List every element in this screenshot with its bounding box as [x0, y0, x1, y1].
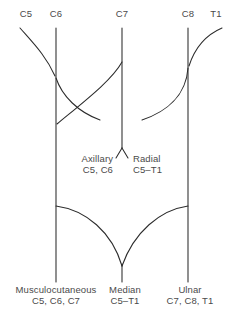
nerve-label-axillary: Axillary C5, C6 [82, 153, 113, 175]
musculocutaneous-name: Musculocutaneous [16, 284, 97, 295]
ulnar-name: Ulnar [178, 284, 201, 295]
median-name: Median [109, 284, 141, 295]
nerve-label-ulnar: Ulnar C7, C8, T1 [167, 284, 214, 306]
median-roots: C5–T1 [109, 295, 141, 306]
nerve-label-musculocutaneous: Musculocutaneous C5, C6, C7 [16, 284, 97, 306]
radial-roots: C5–T1 [133, 164, 162, 175]
c7-to-c6-lower-curve [57, 62, 122, 124]
brachial-plexus-diagram: C5 C6 C7 C8 T1 Axillary C5, C6 Radial C5… [0, 0, 235, 324]
ulnar-roots: C7, C8, T1 [167, 295, 214, 306]
nerve-label-radial: Radial C5–T1 [133, 153, 162, 175]
axillary-branch-line [116, 148, 122, 158]
c8-to-median-curve [122, 206, 188, 266]
nerve-path-svg [0, 0, 235, 324]
t1-to-c8-curve [189, 28, 222, 66]
radial-name: Radial [133, 153, 161, 164]
axillary-roots: C5, C6 [82, 164, 113, 175]
root-label-c8: C8 [182, 8, 194, 19]
axillary-name: Axillary [82, 153, 113, 164]
c6-to-median-curve [56, 206, 122, 266]
musculocutaneous-roots: C5, C6, C7 [16, 295, 97, 306]
radial-branch-line [122, 148, 128, 158]
root-label-c7: C7 [116, 8, 128, 19]
root-label-c6: C6 [50, 8, 62, 19]
root-label-c5: C5 [20, 8, 32, 19]
nerve-label-median: Median C5–T1 [109, 284, 141, 306]
root-label-t1: T1 [210, 8, 221, 19]
c6-to-c7-upper-curve [56, 78, 100, 120]
c5-to-c6-curve [20, 28, 55, 76]
c8-to-c7-curve [142, 68, 188, 120]
